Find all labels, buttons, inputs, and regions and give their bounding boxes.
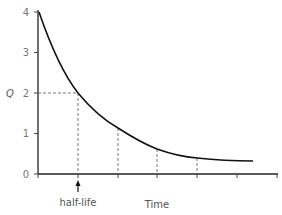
- arrow-up-icon: [76, 180, 81, 192]
- decay-curve: [39, 12, 253, 161]
- dashed-guides: [38, 93, 197, 174]
- y-tick-1: 1: [23, 128, 29, 139]
- y-tick-2: 2: [23, 88, 29, 99]
- y-tick-3: 3: [23, 47, 29, 58]
- y-tick-0: 0: [23, 169, 29, 180]
- y-axis-label: Q: [6, 88, 14, 99]
- half-life-label: half-life: [59, 197, 96, 208]
- y-tick-4: 4: [23, 7, 29, 18]
- decay-chart: 4 3 2 1 0 Q half-life Time: [0, 0, 282, 215]
- x-axis-label: Time: [144, 199, 169, 210]
